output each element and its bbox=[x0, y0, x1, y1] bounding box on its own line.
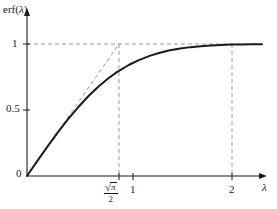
sqrt-pi-over-2-fraction: √π 2 bbox=[104, 182, 118, 204]
plot-canvas bbox=[0, 0, 277, 209]
x-tick-label-sqrt-pi-over-2: √π 2 bbox=[104, 182, 118, 204]
erf-curve bbox=[27, 44, 262, 176]
radical-expression: √π bbox=[105, 182, 117, 193]
y-axis-label-suffix: ) bbox=[24, 3, 28, 15]
erf-function-plot: erf(λ) λ 1 0.5 0 √π 2 1 2 bbox=[0, 0, 277, 209]
y-tick-label-1: 1 bbox=[12, 38, 18, 49]
y-tick-label-0point5: 0.5 bbox=[6, 103, 20, 114]
radicand: π bbox=[110, 182, 117, 193]
origin-label: 0 bbox=[16, 168, 22, 179]
y-axis-label: erf(λ) bbox=[3, 4, 27, 15]
fraction-denominator: 2 bbox=[104, 194, 118, 204]
x-axis-arrowhead-icon bbox=[259, 173, 267, 179]
x-tick-label-2: 2 bbox=[229, 184, 235, 195]
x-axis-label: λ bbox=[262, 182, 267, 193]
x-tick-label-1: 1 bbox=[130, 184, 136, 195]
fraction-numerator: √π bbox=[104, 182, 118, 194]
y-axis-label-prefix: erf( bbox=[3, 3, 19, 15]
